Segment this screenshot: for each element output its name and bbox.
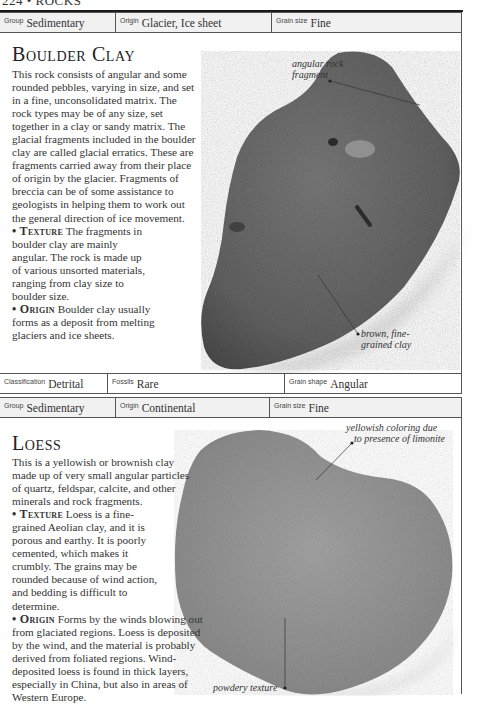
- property-value: Rare: [137, 378, 159, 390]
- property-value: Sedimentary: [26, 402, 84, 414]
- entry-title: Loess: [12, 433, 61, 453]
- property-value: Fine: [311, 17, 331, 29]
- annotation-line: brown, fine-: [361, 328, 411, 339]
- property-group: Group Sedimentary: [0, 13, 116, 32]
- annotation-line: to presence of limonite: [346, 433, 445, 444]
- properties-bar-bottom: Classification Detrital Fossils Rare Gra…: [0, 373, 461, 393]
- property-value: Continental: [142, 402, 196, 414]
- texture-text: Loess is a fine-grained Aeolian clay, an…: [12, 508, 157, 611]
- property-label: Origin: [120, 402, 139, 409]
- annotation-line: grained clay: [361, 339, 411, 350]
- property-value: Fine: [309, 402, 329, 414]
- description: This rock consists of angular and some r…: [12, 68, 196, 225]
- origin-heading: • Origin: [12, 612, 55, 626]
- property-grain-size: Grain size Fine: [272, 13, 461, 32]
- property-label: Group: [4, 402, 23, 409]
- texture-paragraph: • Texture The fragments in boulder clay …: [12, 225, 152, 303]
- texture-heading: • Texture: [12, 224, 63, 238]
- annotation-powdery-texture: powdery texture: [213, 682, 277, 693]
- property-group: Group Sedimentary: [0, 398, 116, 417]
- property-origin: Origin Continental: [116, 398, 270, 417]
- origin-heading: • Origin: [12, 302, 55, 316]
- entry-body: This rock consists of angular and some r…: [12, 68, 212, 342]
- properties-bar-top: Group Sedimentary Origin Continental Gra…: [0, 398, 461, 418]
- properties-bar-top: Group Sedimentary Origin Glacier, Ice sh…: [0, 13, 461, 33]
- entry-body: This is a yellowish or brownish clay mad…: [12, 456, 222, 704]
- running-head: 224 • ROCKS: [2, 0, 81, 9]
- entry-title: Boulder Clay: [12, 44, 135, 64]
- property-label: Origin: [120, 17, 139, 24]
- description: This is a yellowish or brownish clay mad…: [12, 456, 198, 508]
- property-value: Sedimentary: [26, 17, 84, 29]
- annotation-angular-rock-fragment: angular rock fragment: [292, 58, 344, 80]
- annotation-line: fragment: [292, 69, 344, 80]
- property-label: Classification: [4, 378, 45, 385]
- property-classification: Classification Detrital: [0, 374, 108, 393]
- property-grain-shape: Grain shape Angular: [285, 374, 461, 393]
- entry-loess: Group Sedimentary Origin Continental Gra…: [0, 397, 462, 694]
- property-fossils: Fossils Rare: [108, 374, 285, 393]
- property-label: Grain size: [274, 402, 306, 409]
- property-value: Detrital: [48, 378, 83, 390]
- annotation-line: yellowish coloring due: [346, 422, 445, 433]
- property-label: Grain size: [276, 17, 308, 24]
- origin-text: Forms by the winds blowing out from glac…: [12, 613, 203, 703]
- texture-paragraph: • Texture Loess is a fine-grained Aeolia…: [12, 508, 162, 612]
- annotation-brown-fine-grained-clay: brown, fine- grained clay: [361, 328, 411, 350]
- origin-paragraph: • Origin Forms by the winds blowing out …: [12, 613, 208, 704]
- property-label: Group: [4, 17, 23, 24]
- property-label: Grain shape: [289, 378, 327, 385]
- annotation-yellowish-coloring: yellowish coloring due to presence of li…: [346, 422, 445, 444]
- entry-boulder-clay: Group Sedimentary Origin Glacier, Ice sh…: [0, 12, 462, 394]
- property-value: Angular: [330, 378, 368, 390]
- origin-paragraph: • Origin Boulder clay usually forms as a…: [12, 303, 164, 342]
- texture-heading: • Texture: [12, 507, 63, 521]
- property-value: Glacier, Ice sheet: [142, 17, 222, 29]
- annotation-line: powdery texture: [213, 682, 277, 693]
- annotation-line: angular rock: [292, 58, 344, 69]
- property-origin: Origin Glacier, Ice sheet: [116, 13, 272, 32]
- property-label: Fossils: [112, 378, 134, 385]
- property-grain-size: Grain size Fine: [270, 398, 461, 417]
